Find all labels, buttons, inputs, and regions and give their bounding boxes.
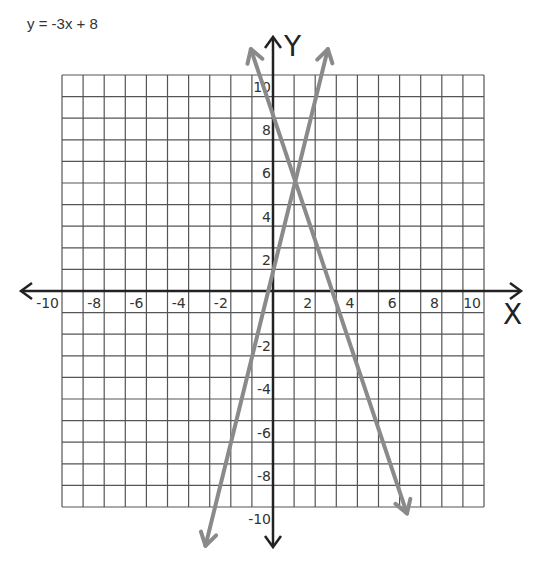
x-tick-label: -6	[129, 295, 143, 311]
x-tick-label: -4	[172, 295, 186, 311]
coordinate-plane: -10-8-6-4-2246810108642-2-4-6-8-10 X Y	[0, 0, 538, 568]
x-tick-label: 4	[345, 295, 354, 311]
x-tick-label: -2	[214, 295, 228, 311]
y-tick-label: 2	[262, 252, 271, 268]
x-tick-label: 10	[463, 295, 481, 311]
tick-labels: -10-8-6-4-2246810108642-2-4-6-8-10	[36, 79, 481, 527]
y-axis-label: Y	[283, 30, 302, 63]
x-tick-label: 8	[430, 295, 439, 311]
y-tick-label: -6	[257, 425, 271, 441]
x-axis-label: X	[503, 298, 522, 331]
y-tick-label: -4	[257, 381, 271, 397]
x-tick-label: -10	[36, 295, 59, 311]
x-tick-label: 2	[303, 295, 312, 311]
x-tick-label: -8	[87, 295, 101, 311]
y-tick-label: 4	[262, 209, 271, 225]
y-tick-label: 6	[262, 165, 271, 181]
y-tick-label: -2	[257, 338, 271, 354]
x-tick-label: 6	[388, 295, 397, 311]
y-tick-label: -8	[257, 468, 271, 484]
y-tick-label: -10	[248, 511, 271, 527]
y-tick-label: 8	[262, 122, 271, 138]
